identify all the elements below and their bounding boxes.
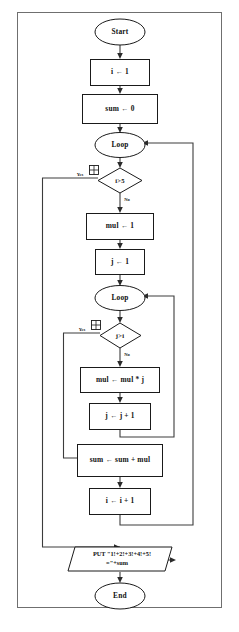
node-start-label: Start (111, 27, 128, 36)
node-init-j-label: j ← 1 (110, 257, 129, 266)
node-output-line2: ="+sum (106, 559, 129, 566)
node-j-update-label: j ← j + 1 (104, 411, 135, 420)
node-init-sum[interactable]: sum ← 0 (83, 95, 158, 124)
edge-label-outer-no: No (124, 197, 130, 202)
node-i-update-label: i ← i + 1 (106, 496, 135, 505)
node-inner-loop[interactable]: Loop (95, 286, 145, 311)
node-end[interactable]: End (95, 583, 145, 609)
flowchart-canvas: Start i ← 1 sum ← 0 Loop i>5 Yes No mul … (0, 0, 239, 632)
node-mul-update-label: mul ← mul * j (96, 375, 144, 384)
node-output[interactable]: PUT "1!+2!+3!+4!+5! ="+sum (68, 547, 172, 571)
node-init-mul-label: mul ← 1 (106, 221, 135, 230)
node-init-sum-label: sum ← 0 (105, 104, 134, 113)
node-init-mul[interactable]: mul ← 1 (87, 214, 154, 240)
node-end-label: End (113, 591, 127, 600)
node-i-update[interactable]: i ← i + 1 (90, 489, 151, 515)
node-outer-cond-label: i>5 (115, 177, 125, 184)
node-start[interactable]: Start (95, 19, 145, 45)
node-sum-update[interactable]: sum ← sum + mul (78, 445, 163, 477)
inner-cond-marker-icon (92, 321, 101, 330)
node-init-i[interactable]: i ← 1 (91, 60, 150, 86)
node-init-i-label: i ← 1 (111, 67, 129, 76)
node-mul-update[interactable]: mul ← mul * j (81, 368, 160, 393)
node-j-update[interactable]: j ← j + 1 (90, 404, 151, 430)
node-output-line1: PUT "1!+2!+3!+4!+5! (93, 550, 151, 557)
node-sum-update-label: sum ← sum + mul (90, 455, 151, 464)
node-inner-cond-label: j>i (115, 332, 124, 339)
node-outer-loop[interactable]: Loop (95, 133, 145, 158)
edge-label-inner-yes: Yes (79, 327, 86, 332)
node-init-j[interactable]: j ← 1 (96, 250, 145, 275)
edge-label-inner-no: No (124, 352, 130, 357)
edge-label-outer-yes: Yes (77, 172, 84, 177)
node-inner-loop-label: Loop (111, 293, 128, 302)
node-outer-loop-label: Loop (111, 140, 128, 149)
outer-cond-marker-icon (90, 166, 99, 175)
